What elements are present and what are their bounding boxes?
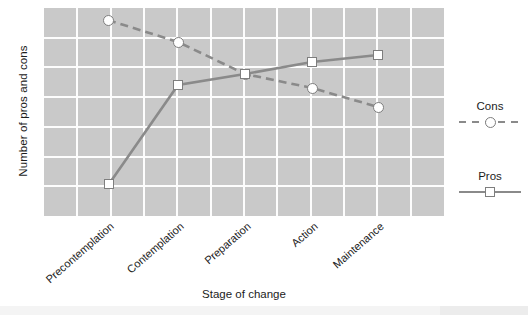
data-point-pros-1 <box>173 80 183 90</box>
chart-figure: Number of pros and cons Precontemplation… <box>0 0 528 315</box>
x-axis-tick-labels: PrecontemplationContemplationPreparation… <box>44 216 444 286</box>
legend-sample-cons <box>459 116 521 128</box>
x-axis-title: Stage of change <box>44 288 444 300</box>
data-point-pros-3 <box>307 57 317 67</box>
plot-area <box>44 8 444 216</box>
data-point-cons-3 <box>307 83 318 94</box>
page-bottom-band-right <box>440 306 528 315</box>
legend-label-cons: Cons <box>452 100 528 112</box>
data-point-pros-2 <box>240 69 250 79</box>
series-markers <box>44 8 444 216</box>
x-tick-label-4: Maintenance <box>257 220 386 315</box>
chart-legend: ConsPros <box>452 100 528 210</box>
data-point-pros-4 <box>373 50 383 60</box>
legend-marker-square-icon <box>485 187 495 197</box>
legend-sample-pros <box>459 186 521 198</box>
y-axis-title: Number of pros and cons <box>17 11 29 211</box>
data-point-pros-0 <box>104 179 114 189</box>
data-point-cons-0 <box>103 15 114 26</box>
legend-entry-pros[interactable]: Pros <box>452 170 528 198</box>
legend-marker-circle-icon <box>485 117 496 128</box>
legend-label-pros: Pros <box>452 170 528 182</box>
data-point-cons-1 <box>173 37 184 48</box>
data-point-cons-4 <box>373 102 384 113</box>
legend-entry-cons[interactable]: Cons <box>452 100 528 128</box>
